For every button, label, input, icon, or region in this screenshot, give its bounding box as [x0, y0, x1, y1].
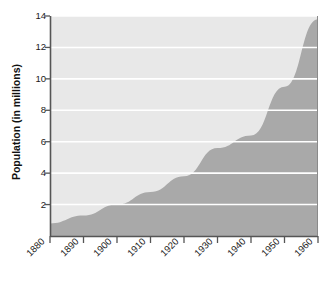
- y-axis-tick-marks-group: [45, 16, 50, 205]
- population-area-chart: Population (in millions) 2468101214 1880…: [0, 0, 336, 289]
